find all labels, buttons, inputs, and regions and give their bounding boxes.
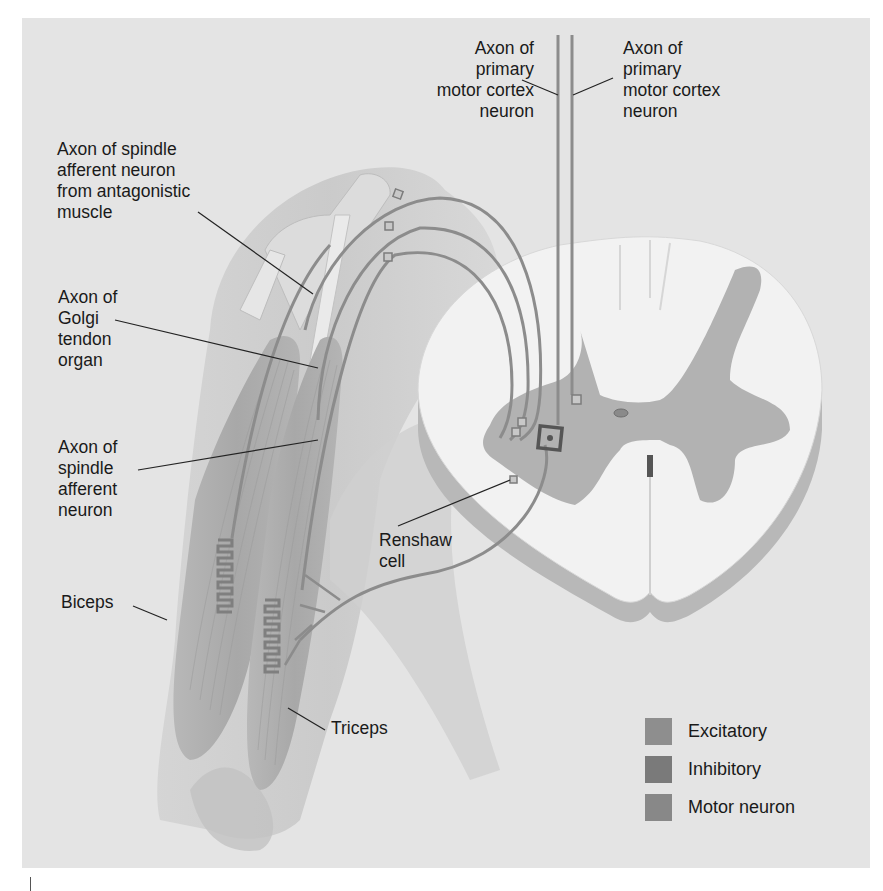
legend-label: Motor neuron [688,797,795,818]
renshaw-cell-body [510,476,517,483]
label-axon-spindle-afferent: Axon of spindle afferent neuron [58,437,117,521]
label-axon-primary-motor-right: Axon of primary motor cortex neuron [623,38,720,122]
legend-label: Excitatory [688,721,767,742]
legend: Excitatory Inhibitory Motor neuron [645,712,795,826]
spinal-cord [418,237,822,622]
label-triceps: Triceps [331,718,388,739]
legend-item-excitatory: Excitatory [645,712,795,750]
motor-neuron-swatch [645,794,672,821]
excitatory-swatch [645,718,672,745]
page-margin-mark [30,877,31,891]
legend-label: Inhibitory [688,759,761,780]
inhibitory-swatch [645,756,672,783]
label-biceps: Biceps [61,592,114,613]
legend-item-motor-neuron: Motor neuron [645,788,795,826]
label-axon-golgi-tendon: Axon of Golgi tendon organ [58,287,117,371]
label-axon-spindle-antagonistic: Axon of spindle afferent neuron from ant… [57,139,190,223]
label-renshaw-cell: Renshaw cell [379,530,452,572]
label-axon-primary-motor-left: Axon of primary motor cortex neuron [396,38,534,122]
legend-item-inhibitory: Inhibitory [645,750,795,788]
